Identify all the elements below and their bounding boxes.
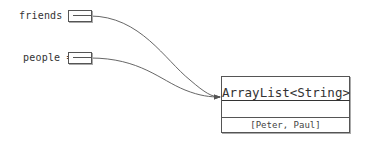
people-label: people = — [23, 52, 73, 63]
people-arrow — [90, 58, 220, 97]
people-reference-box — [68, 52, 92, 64]
friends-reference-box — [68, 10, 92, 22]
friends-arrow — [90, 16, 220, 97]
object-value: [Peter, Paul] — [222, 120, 349, 130]
object-divider — [222, 117, 349, 118]
object-type: ArrayList<String> — [222, 85, 349, 109]
arraylist-object-box: ArrayList<String> [Peter, Paul] — [221, 76, 350, 133]
object-reference-diagram: friends = people = ArrayList<String> [Pe… — [0, 0, 365, 143]
friends-label: friends = — [19, 10, 75, 21]
